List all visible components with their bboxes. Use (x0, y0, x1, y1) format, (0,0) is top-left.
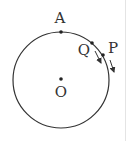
center-o-dot (59, 77, 63, 81)
center-o-label: O (55, 83, 67, 101)
point-p-label: P (108, 39, 118, 57)
point-a-label: A (54, 9, 66, 27)
point-q-dot (90, 41, 94, 45)
circle-diagram: A Q P O (0, 0, 129, 141)
diagram-canvas: A Q P O (0, 0, 129, 141)
p-direction-arrow-icon (110, 60, 114, 72)
point-q-label: Q (78, 41, 90, 59)
point-p-dot (101, 53, 105, 57)
point-a-dot (59, 30, 63, 34)
